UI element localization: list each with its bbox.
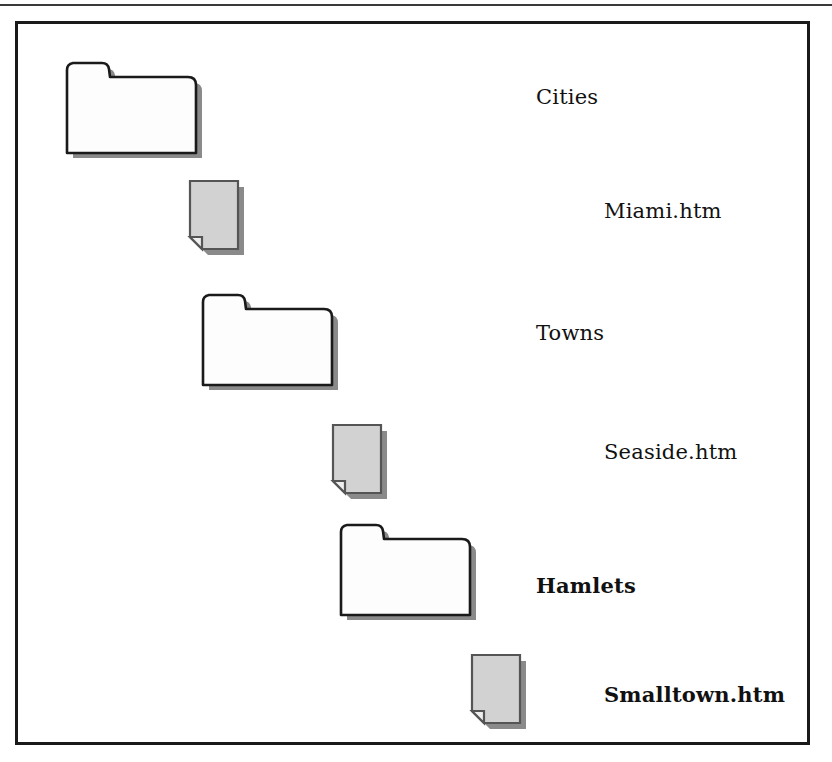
top-horizontal-rule [0, 4, 832, 6]
folder-icon[interactable] [329, 520, 477, 620]
document-icon[interactable] [468, 653, 532, 731]
item-label: Cities [536, 87, 598, 108]
document-icon[interactable] [329, 423, 393, 501]
folder-icon[interactable] [191, 290, 339, 390]
folder-icon[interactable] [55, 58, 203, 158]
item-label: Miami.htm [604, 201, 722, 222]
item-label: Hamlets [536, 575, 636, 596]
document-icon[interactable] [186, 179, 250, 257]
item-label: Smalltown.htm [604, 684, 785, 705]
item-label: Towns [536, 323, 604, 344]
item-label: Seaside.htm [604, 442, 737, 463]
figure-frame: CitiesMiami.htmTownsSeaside.htmHamletsSm… [15, 21, 810, 745]
